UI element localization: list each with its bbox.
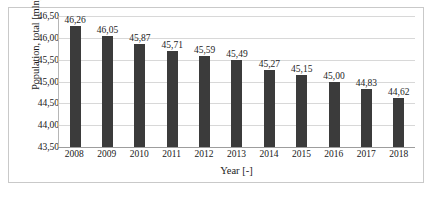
y-axis-tick-label: 45,00 bbox=[23, 77, 59, 87]
y-axis-tick-label: 45,50 bbox=[23, 55, 59, 65]
bar-value-label: 45,27 bbox=[259, 59, 280, 69]
bar-value-label: 45,15 bbox=[291, 64, 312, 74]
bar-value-label: 45,71 bbox=[162, 40, 183, 50]
bar[interactable] bbox=[134, 44, 145, 147]
x-axis-baseline bbox=[59, 147, 415, 148]
bar[interactable] bbox=[264, 70, 275, 147]
bar-value-label: 45,87 bbox=[129, 33, 150, 43]
bar-value-label: 45,49 bbox=[226, 49, 247, 59]
bar[interactable] bbox=[199, 56, 210, 147]
x-axis-tick-labels: 2008200920102011201220132014201520162017… bbox=[58, 149, 415, 163]
x-axis-tick-label: 2009 bbox=[90, 149, 122, 163]
figure-caption bbox=[10, 190, 425, 202]
bar-group[interactable]: 45,49 bbox=[221, 16, 253, 147]
bar-value-label: 46,05 bbox=[97, 25, 118, 35]
bar[interactable] bbox=[102, 36, 113, 147]
bar[interactable] bbox=[167, 51, 178, 148]
bar-value-label: 44,83 bbox=[356, 78, 377, 88]
bar-value-label: 45,00 bbox=[323, 71, 344, 81]
bar[interactable] bbox=[361, 89, 372, 147]
x-axis-tick-label: 2018 bbox=[383, 149, 415, 163]
bar-group[interactable]: 45,59 bbox=[188, 16, 220, 147]
y-axis-tick-label: 46,00 bbox=[23, 33, 59, 43]
x-axis-tick-label: 2011 bbox=[155, 149, 187, 163]
bar[interactable] bbox=[393, 98, 404, 147]
bar-group[interactable]: 45,87 bbox=[124, 16, 156, 147]
bar-group[interactable]: 45,15 bbox=[286, 16, 318, 147]
x-axis-tick-label: 2015 bbox=[285, 149, 317, 163]
x-axis-tick-label: 2017 bbox=[350, 149, 382, 163]
bar-group[interactable]: 44,83 bbox=[350, 16, 382, 147]
y-axis-tick-label: 44,00 bbox=[23, 120, 59, 130]
x-axis-tick-label: 2012 bbox=[188, 149, 220, 163]
x-axis-tick-label: 2008 bbox=[58, 149, 90, 163]
bar-value-label: 45,59 bbox=[194, 45, 215, 55]
bar-series: 46,2646,0545,8745,7145,5945,4945,2745,15… bbox=[59, 16, 415, 147]
bar[interactable] bbox=[329, 82, 340, 148]
plot-area: 46,2646,0545,8745,7145,5945,4945,2745,15… bbox=[58, 16, 415, 147]
y-axis-tick-label: 43,50 bbox=[23, 142, 59, 152]
bar[interactable] bbox=[70, 26, 81, 147]
bar-value-label: 44,62 bbox=[388, 87, 409, 97]
bar-group[interactable]: 45,00 bbox=[318, 16, 350, 147]
x-axis-tick-label: 2010 bbox=[123, 149, 155, 163]
bar-group[interactable]: 45,71 bbox=[156, 16, 188, 147]
bar-group[interactable]: 46,05 bbox=[91, 16, 123, 147]
x-axis-title: Year [-] bbox=[58, 165, 415, 176]
x-axis-tick-label: 2014 bbox=[253, 149, 285, 163]
bar-group[interactable]: 44,62 bbox=[383, 16, 415, 147]
bar[interactable] bbox=[231, 60, 242, 147]
bar-group[interactable]: 45,27 bbox=[253, 16, 285, 147]
x-axis-tick-label: 2016 bbox=[318, 149, 350, 163]
bar[interactable] bbox=[296, 75, 307, 147]
chart-figure: Population, total [mln] 43,5044,0044,504… bbox=[8, 7, 424, 183]
y-axis-tick-labels: 43,5044,0044,5045,0045,5046,0046,50 bbox=[23, 16, 59, 147]
bar-value-label: 46,26 bbox=[64, 15, 85, 25]
x-axis-tick-label: 2013 bbox=[220, 149, 252, 163]
y-axis-tick-label: 44,50 bbox=[23, 98, 59, 108]
y-axis-tick-label: 46,50 bbox=[23, 11, 59, 21]
bar-group[interactable]: 46,26 bbox=[59, 16, 91, 147]
